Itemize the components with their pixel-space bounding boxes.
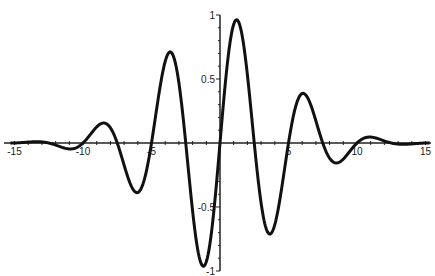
y-tick-label: 0.5 bbox=[201, 74, 215, 85]
y-tick-label: 1 bbox=[209, 10, 215, 21]
line-chart: -15-10-55101510.5-0.5-1 bbox=[0, 0, 435, 276]
x-tick-label: -15 bbox=[7, 146, 22, 157]
axes: -15-10-55101510.5-0.5-1 bbox=[4, 10, 431, 276]
x-tick-label: 15 bbox=[420, 146, 432, 157]
y-tick-label: -1 bbox=[206, 266, 215, 276]
